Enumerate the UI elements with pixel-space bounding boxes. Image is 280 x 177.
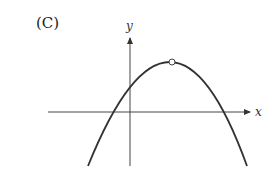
y-axis-label: y	[125, 19, 133, 33]
graph: x y	[0, 0, 280, 177]
vertex-open-circle	[169, 59, 175, 65]
parabola-curve	[88, 62, 247, 166]
x-axis-label: x	[255, 105, 262, 119]
